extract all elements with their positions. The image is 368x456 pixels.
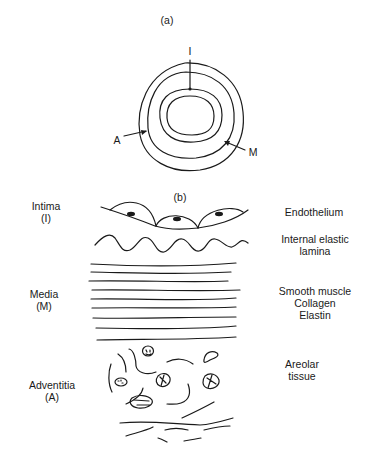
adventitia-abbr: (A) — [22, 391, 82, 403]
media-abbr: (M) — [14, 300, 74, 312]
adventitia-name: Adventitia — [22, 379, 82, 391]
media-components-label: Smooth muscle Collagen Elastin — [265, 285, 365, 321]
intima-name: Intima — [16, 200, 76, 212]
cell-polygon-1 — [156, 374, 170, 387]
intima-ring — [160, 89, 222, 142]
areolar-tissue-label: Areolar tissue — [272, 358, 332, 382]
adventitia-outer-ring — [139, 63, 243, 171]
endothelium-label: Endothelium — [264, 206, 364, 218]
pointer-m-label: M — [247, 146, 259, 158]
media-label: Media (M) — [14, 288, 74, 312]
pointer-i-label: I — [185, 45, 195, 57]
cross-section — [124, 60, 245, 171]
panel-a-label: (a) — [160, 14, 174, 26]
pointer-a-label: A — [112, 134, 122, 146]
cell-oval — [115, 378, 127, 386]
media-outer-ring — [148, 72, 234, 158]
cell-polygon-2 — [203, 374, 219, 389]
media-name: Media — [14, 288, 74, 300]
panel-b-label: (b) — [172, 191, 188, 203]
lumen — [167, 96, 214, 135]
intima-label: Intima (I) — [16, 200, 76, 224]
intima-abbr: (I) — [16, 212, 76, 224]
media-lines — [89, 263, 240, 340]
cell-crescent — [204, 352, 218, 363]
endothelium-cells — [101, 202, 248, 229]
areolar-tissue — [109, 346, 233, 442]
internal-elastic-lamina — [95, 235, 248, 252]
adventitia-label: Adventitia (A) — [22, 379, 82, 403]
pointer-i-head — [188, 87, 191, 90]
internal-elastic-lamina-label: Internal elastic lamina — [265, 233, 365, 257]
cell-polygon-3 — [130, 396, 152, 409]
